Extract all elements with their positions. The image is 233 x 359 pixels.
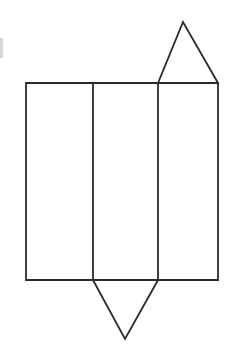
figure-background [0,0,233,359]
geometry-figure-canvas: Net of a triangular prism [0,0,233,359]
left-edge-artifact [0,38,3,58]
net-diagram-svg [0,0,233,359]
